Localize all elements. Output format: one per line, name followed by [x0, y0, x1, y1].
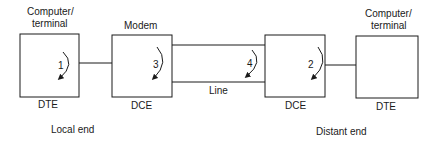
local-dte-bottom-label: DTE — [38, 99, 58, 110]
distant-dce-box — [265, 35, 325, 97]
modem-label: Modem — [124, 20, 157, 31]
line-label: Line — [209, 85, 228, 96]
loopback-diagram: Computer/ terminal DTE 1 Modem DCE 3 Lin… — [0, 0, 439, 145]
local-dce-bottom-label: DCE — [131, 100, 152, 111]
local-dte-box — [20, 34, 79, 97]
distant-dte-bottom-label: DTE — [376, 101, 396, 112]
distant-dce-bottom-label: DCE — [285, 100, 306, 111]
distant-dte-label-1: Computer/ — [365, 8, 412, 19]
loop-number-1: 1 — [58, 60, 64, 71]
local-dte-label-2: terminal — [32, 18, 68, 29]
loop-number-3: 3 — [153, 59, 159, 70]
local-end-label: Local end — [51, 124, 94, 135]
local-dce-box — [112, 35, 172, 97]
loop-number-4: 4 — [247, 58, 253, 69]
distant-end-label: Distant end — [316, 126, 367, 137]
loop-arrow-2-icon — [313, 47, 323, 78]
loop-number-2: 2 — [308, 59, 314, 70]
local-dte-label-1: Computer/ — [27, 6, 74, 17]
distant-dte-label-2: terminal — [371, 20, 407, 31]
distant-dte-box — [356, 36, 418, 98]
